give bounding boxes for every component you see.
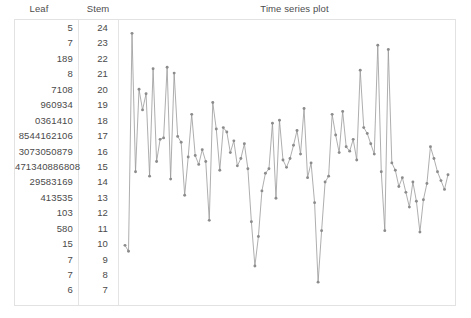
- stem-leaf-table: 5718987108960934036141085441621063073050…: [14, 19, 456, 306]
- data-point: [148, 175, 151, 178]
- stem-cell: 19: [79, 97, 117, 112]
- data-point: [397, 185, 400, 188]
- data-point: [264, 172, 267, 175]
- leaf-cell: 15: [15, 236, 74, 251]
- data-point: [134, 170, 137, 173]
- data-point: [257, 235, 260, 238]
- data-point: [415, 200, 418, 203]
- stem-cell: 7: [79, 282, 117, 297]
- data-point: [236, 164, 239, 167]
- stem-column-header: Stem: [78, 3, 118, 14]
- leaf-column-header: Leaf: [0, 3, 78, 14]
- leaf-cell: 7108: [15, 82, 74, 97]
- data-point: [289, 157, 292, 160]
- data-point: [345, 145, 348, 148]
- data-point: [275, 197, 278, 200]
- leaf-cell: 8544162106: [15, 128, 74, 143]
- data-point: [447, 173, 450, 176]
- data-point: [418, 231, 421, 234]
- data-point: [341, 110, 344, 113]
- data-point: [411, 181, 414, 184]
- data-point: [359, 69, 362, 72]
- data-point: [306, 176, 309, 179]
- stem-cell: 15: [79, 159, 117, 174]
- data-point: [296, 129, 299, 132]
- data-point: [145, 92, 148, 95]
- data-point: [320, 229, 323, 232]
- time-series-plot: [119, 20, 456, 305]
- data-point: [282, 159, 285, 162]
- leaf-cell: 0361410: [15, 113, 74, 128]
- stem-cell: 17: [79, 128, 117, 143]
- leaf-cell: 960934: [15, 97, 74, 112]
- time-series-svg: [119, 20, 456, 305]
- leaf-cell: 29583169: [15, 174, 74, 189]
- data-point: [348, 150, 351, 153]
- data-point: [246, 167, 249, 170]
- data-point: [394, 169, 397, 172]
- data-point: [376, 44, 379, 47]
- data-point: [362, 126, 365, 129]
- stem-cell: 24: [79, 20, 117, 35]
- time-series-markers: [124, 32, 450, 284]
- data-point: [285, 166, 288, 169]
- stem-cell: 20: [79, 82, 117, 97]
- data-point: [278, 119, 281, 122]
- data-point: [425, 182, 428, 185]
- data-point: [355, 159, 358, 162]
- data-point: [159, 138, 162, 141]
- data-point: [152, 67, 155, 70]
- data-point: [197, 163, 200, 166]
- time-series-line: [125, 33, 448, 282]
- data-point: [268, 167, 271, 170]
- data-point: [208, 219, 211, 222]
- stem-column: 242322212019181716151413121110987: [79, 20, 117, 298]
- data-point: [271, 122, 274, 125]
- data-point: [180, 141, 183, 144]
- data-point: [222, 126, 225, 129]
- data-point: [317, 281, 320, 284]
- data-point: [215, 128, 218, 131]
- stem-cell: 22: [79, 51, 117, 66]
- data-point: [218, 169, 221, 172]
- data-point: [162, 136, 165, 139]
- data-point: [313, 201, 316, 204]
- leaf-cell: 580: [15, 221, 74, 236]
- data-point: [124, 244, 127, 247]
- data-point: [408, 206, 411, 209]
- data-point: [324, 181, 327, 184]
- data-point: [166, 66, 169, 69]
- column-headers: Leaf Stem Time series plot: [0, 0, 471, 20]
- data-point: [303, 107, 306, 110]
- data-point: [141, 108, 144, 111]
- leaf-cell: 103: [15, 205, 74, 220]
- data-point: [232, 139, 235, 142]
- leaf-cell: 7: [15, 267, 74, 282]
- stem-leaf-timeseries-panel: Leaf Stem Time series plot 5718987108960…: [0, 0, 471, 318]
- data-point: [401, 176, 404, 179]
- data-point: [253, 265, 256, 268]
- data-point: [380, 170, 383, 173]
- stem-cell: 16: [79, 144, 117, 159]
- data-point: [155, 160, 158, 163]
- leaf-cell: 8: [15, 66, 74, 81]
- data-point: [440, 179, 443, 182]
- data-point: [190, 113, 193, 116]
- data-point: [211, 101, 214, 104]
- data-point: [239, 157, 242, 160]
- data-point: [292, 144, 295, 147]
- stem-cell: 8: [79, 267, 117, 282]
- data-point: [404, 191, 407, 194]
- data-point: [229, 151, 232, 154]
- data-point: [373, 153, 376, 156]
- leaf-cell: 413535: [15, 190, 74, 205]
- data-point: [443, 188, 446, 191]
- stem-cell: 9: [79, 252, 117, 267]
- stem-cell: 10: [79, 236, 117, 251]
- data-point: [338, 151, 341, 154]
- stem-cell: 18: [79, 113, 117, 128]
- data-point: [131, 32, 134, 35]
- data-point: [169, 178, 172, 181]
- data-point: [433, 157, 436, 160]
- data-point: [187, 156, 190, 159]
